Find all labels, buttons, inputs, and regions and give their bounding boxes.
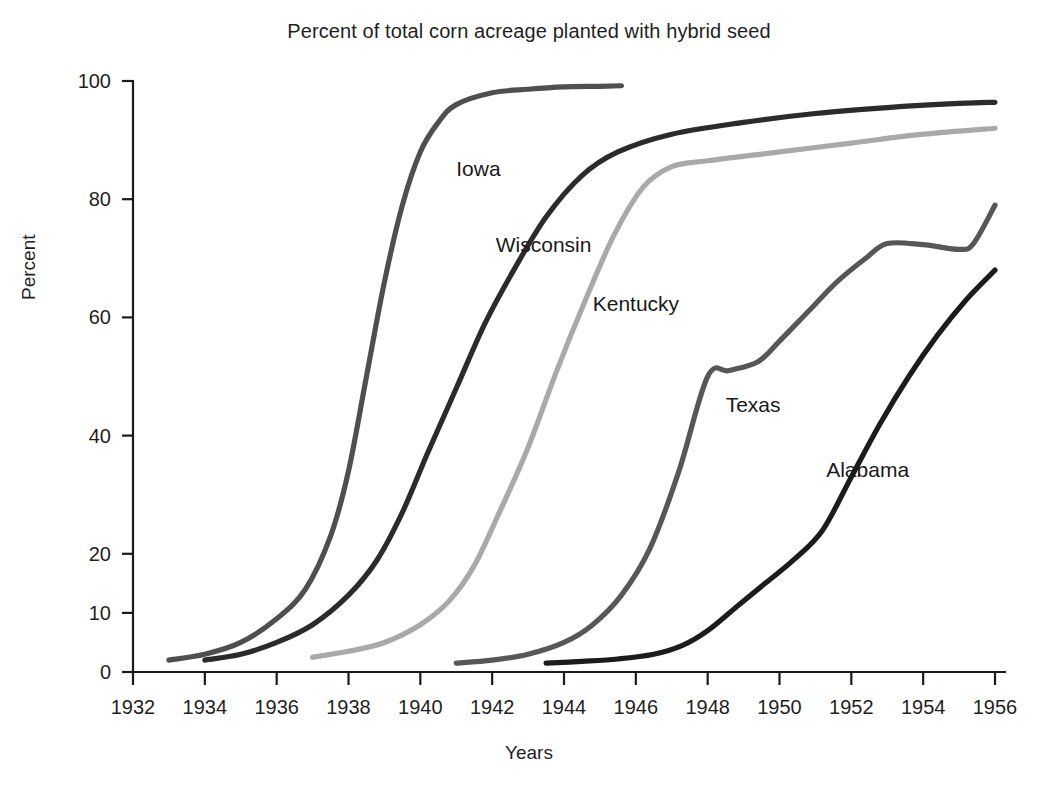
plot-area: 01020406080100 1932193419361938194019421…	[0, 0, 1058, 785]
y-tick-label-100: 100	[78, 70, 111, 92]
series-label-alabama: Alabama	[826, 458, 909, 481]
x-tick-label-1932: 1932	[111, 696, 156, 718]
series-lines	[169, 86, 995, 663]
x-tick-label-1934: 1934	[183, 696, 228, 718]
x-tick-label-1936: 1936	[254, 696, 299, 718]
y-axis: 01020406080100	[78, 70, 133, 683]
series-label-kentucky: Kentucky	[593, 292, 680, 315]
x-tick-label-1952: 1952	[829, 696, 874, 718]
x-tick-label-1954: 1954	[901, 696, 946, 718]
series-label-iowa: Iowa	[456, 157, 501, 180]
x-tick-label-1946: 1946	[614, 696, 659, 718]
series-label-texas: Texas	[726, 393, 781, 416]
chart-container: Percent of total corn acreage planted wi…	[0, 0, 1058, 785]
y-tick-label-60: 60	[89, 306, 111, 328]
y-tick-label-10: 10	[89, 602, 111, 624]
x-tick-label-1948: 1948	[685, 696, 730, 718]
series-line-texas	[456, 205, 995, 663]
x-axis: 1932193419361938194019421944194619481950…	[111, 672, 1018, 718]
y-tick-label-0: 0	[100, 661, 111, 683]
series-labels: IowaWisconsinKentuckyTexasAlabama	[456, 157, 909, 481]
x-tick-label-1942: 1942	[470, 696, 515, 718]
x-tick-label-1956: 1956	[973, 696, 1018, 718]
x-tick-label-1938: 1938	[326, 696, 371, 718]
x-tick-label-1950: 1950	[757, 696, 802, 718]
y-tick-label-20: 20	[89, 543, 111, 565]
y-tick-label-40: 40	[89, 425, 111, 447]
x-tick-label-1944: 1944	[542, 696, 587, 718]
x-tick-label-1940: 1940	[398, 696, 443, 718]
series-label-wisconsin: Wisconsin	[496, 233, 592, 256]
series-line-wisconsin	[205, 102, 995, 660]
series-line-kentucky	[313, 128, 995, 657]
y-tick-label-80: 80	[89, 188, 111, 210]
